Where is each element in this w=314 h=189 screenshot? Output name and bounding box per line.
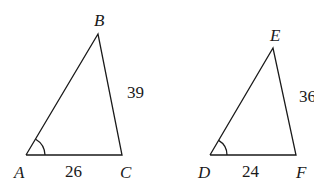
triangle-def: E 36 D 24 F — [197, 26, 314, 182]
angle-d-arc — [219, 140, 227, 155]
vertex-f-label: F — [295, 163, 307, 182]
side-bc-length: 39 — [127, 83, 144, 102]
side-ef-length: 36 — [299, 87, 314, 106]
similar-triangles-diagram: B 39 A 26 C E 36 D 24 F — [0, 0, 314, 189]
triangle-abc-edges — [26, 34, 122, 155]
vertex-d-label: D — [197, 163, 211, 182]
vertex-c-label: C — [120, 163, 132, 182]
side-ac-length: 26 — [65, 162, 82, 181]
vertex-e-label: E — [269, 26, 281, 45]
side-df-length: 24 — [242, 162, 260, 181]
vertex-a-label: A — [13, 163, 25, 182]
triangle-def-edges — [210, 48, 296, 155]
vertex-b-label: B — [94, 11, 105, 30]
angle-a-arc — [36, 139, 45, 155]
triangle-abc: B 39 A 26 C — [13, 11, 144, 182]
